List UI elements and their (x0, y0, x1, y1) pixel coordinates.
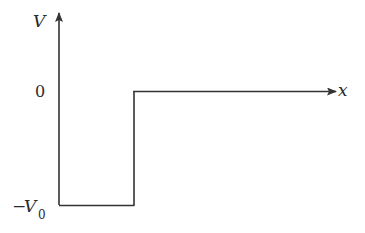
potential-step-diagram: V x 0 − V 0 (0, 0, 365, 233)
v0-subscript: 0 (38, 208, 46, 222)
neg-v0-tick-label: − V 0 (12, 196, 46, 222)
v0-symbol: V (24, 196, 38, 216)
zero-tick-label: 0 (35, 82, 45, 101)
y-axis-label: V (33, 11, 47, 31)
x-axis-label: x (338, 80, 348, 100)
